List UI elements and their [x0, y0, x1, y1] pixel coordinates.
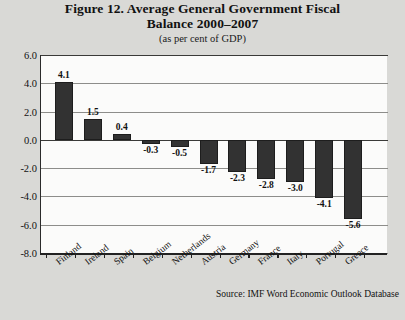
y-axis-tick-label: -2.0: [1, 163, 37, 174]
bar-value-label: -5.6: [346, 220, 361, 230]
y-axis-tick-label: 6.0: [1, 50, 37, 61]
y-axis-tick-label: 0.0: [1, 134, 37, 145]
y-axis-tick-label: -6.0: [1, 219, 37, 230]
bar: [113, 134, 131, 140]
chart-subtitle: (as per cent of GDP): [0, 31, 405, 45]
bar: [84, 119, 102, 140]
bar: [200, 140, 218, 164]
bar-value-label: 1.5: [87, 107, 99, 117]
gridline: [41, 225, 388, 226]
chart-title-block: Figure 12. Average General Government Fi…: [0, 1, 405, 45]
gridline: [41, 83, 388, 84]
bar: [142, 140, 160, 144]
x-axis-tick: [46, 253, 47, 258]
figure-container: Figure 12. Average General Government Fi…: [0, 0, 405, 320]
bar-value-label: -2.8: [259, 180, 274, 190]
bar-value-label: -1.7: [201, 165, 216, 175]
bar-value-label: -2.3: [230, 173, 245, 183]
y-axis-labels: 6.04.02.00.0-2.0-4.0-6.0-8.0: [0, 0, 37, 320]
y-axis-tick-label: 4.0: [1, 78, 37, 89]
chart-title-line-1: Figure 12. Average General Government Fi…: [0, 1, 405, 16]
bar: [55, 82, 73, 140]
chart-title-line-2: Balance 2000–2007: [0, 16, 405, 31]
y-axis-tick-label: -8.0: [1, 248, 37, 259]
bar-value-label: -4.1: [317, 199, 332, 209]
source-note: Source: IMF Word Economic Outlook Databa…: [0, 289, 399, 299]
bar-value-label: -0.5: [172, 148, 187, 158]
bar-value-label: -3.0: [288, 183, 303, 193]
gridline: [41, 55, 388, 56]
bar: [257, 140, 275, 180]
gridline: [41, 196, 388, 197]
x-axis-tick: [306, 253, 307, 258]
bar: [171, 140, 189, 147]
bar: [344, 140, 362, 219]
bar: [228, 140, 246, 173]
bar-value-label: 0.4: [116, 122, 128, 132]
bar: [315, 140, 333, 198]
y-axis-tick-label: -4.0: [1, 191, 37, 202]
bar: [286, 140, 304, 182]
y-axis-tick-label: 2.0: [1, 106, 37, 117]
bar-value-label: 4.1: [58, 70, 70, 80]
bar-value-label: -0.3: [143, 145, 158, 155]
